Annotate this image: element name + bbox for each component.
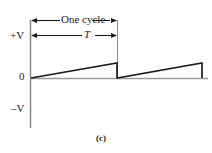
arrowhead-right bbox=[111, 18, 117, 23]
label-period: T bbox=[84, 29, 90, 40]
label-one-cycle: One cycle bbox=[61, 14, 105, 25]
arrowhead-left bbox=[31, 33, 37, 38]
arrowhead-left bbox=[31, 18, 37, 23]
sawtooth-waveform bbox=[31, 63, 202, 78]
arrowhead-right bbox=[111, 33, 117, 38]
figure-caption: (c) bbox=[96, 134, 106, 143]
label-negative-peak: –V bbox=[11, 103, 24, 114]
waveform-figure: One cycle T +V 0 –V (c) bbox=[0, 0, 212, 153]
label-zero: 0 bbox=[19, 71, 25, 82]
label-positive-peak: +V bbox=[10, 30, 24, 41]
waveform-plot bbox=[0, 0, 212, 153]
period-dimension bbox=[31, 33, 117, 38]
